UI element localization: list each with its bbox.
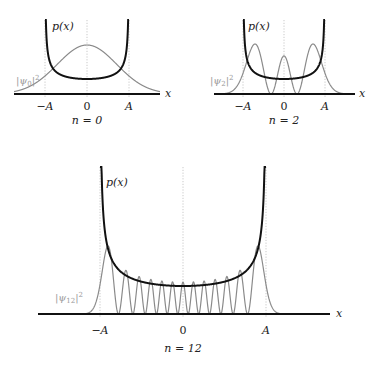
psi-squared-label: |ψ2|2	[210, 74, 234, 88]
tick-zero: 0	[84, 100, 91, 113]
panel-caption: n = 0	[72, 114, 102, 127]
panel-n0: x−A0An = 0p(x)|ψ0|2	[14, 20, 172, 127]
panel-caption: n = 2	[269, 114, 299, 127]
panel-n2: x−A0An = 2p(x)|ψ2|2	[210, 20, 366, 127]
p-of-x-label: p(x)	[52, 20, 74, 33]
panel-caption: n = 12	[164, 342, 201, 355]
tick-zero: 0	[180, 324, 187, 337]
tick-minus-A: −A	[91, 324, 108, 337]
panel-n12: x−A0An = 12p(x)|ψ12|2	[38, 167, 343, 355]
x-axis-label: x	[336, 307, 343, 320]
tick-minus-A: −A	[234, 100, 251, 113]
p-of-x-label: p(x)	[248, 20, 270, 33]
tick-A: A	[124, 100, 133, 113]
psi-squared-curve	[85, 246, 330, 314]
harmonic-oscillator-figure: x−A0An = 0p(x)|ψ0|2x−A0An = 2p(x)|ψ2|2x−…	[0, 0, 379, 370]
x-axis-label: x	[359, 87, 366, 100]
tick-A: A	[320, 100, 329, 113]
psi-squared-label: |ψ12|2	[55, 291, 83, 305]
x-axis-label: x	[165, 87, 172, 100]
p-of-x-label: p(x)	[106, 176, 128, 189]
psi-squared-label: |ψ0|2	[16, 74, 40, 88]
tick-minus-A: −A	[36, 100, 53, 113]
tick-A: A	[261, 324, 270, 337]
tick-zero: 0	[281, 100, 288, 113]
